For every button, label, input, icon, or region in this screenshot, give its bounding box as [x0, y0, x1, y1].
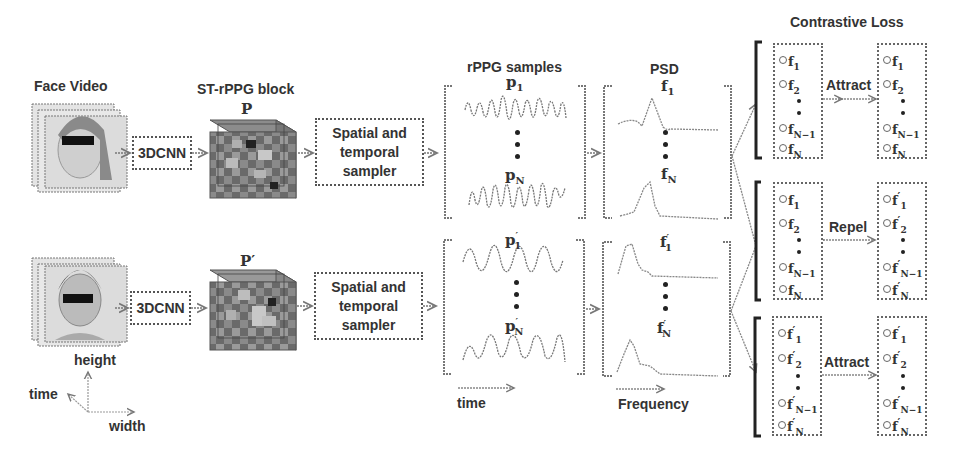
block-label-p-prime: P′ [240, 252, 255, 270]
psd-f1-prime: f′1 [660, 232, 672, 253]
3dcnn-bottom: 3DCNN [130, 291, 191, 325]
fanout-lines [731, 104, 756, 372]
block-label-p: P [241, 100, 252, 118]
ellipsis-dot [663, 130, 668, 135]
ellipsis-dot [663, 294, 668, 299]
ellipsis-dot [663, 142, 668, 147]
psd-f1: f1 [661, 77, 674, 97]
feature-box-g1-left: f1 f2 fN−1 fN [773, 182, 823, 300]
face-video-bottom [32, 258, 127, 346]
title-face-video: Face Video [34, 78, 108, 94]
psd-fN: fN [661, 165, 677, 185]
relation-attract-2: Attract [824, 354, 869, 370]
ellipsis-dot [515, 130, 520, 135]
ellipsis-dot [514, 304, 519, 309]
ellipsis-dot [515, 154, 520, 159]
psd-curve-f1 [618, 98, 718, 130]
feature-box-g0-right: f1 f2 fN−1 fN [877, 43, 927, 159]
st-rppg-cube-top [210, 120, 296, 198]
sampler-bottom: Spatial and temporal sampler [314, 272, 423, 340]
psd-curve-fN-prime [617, 340, 718, 376]
ellipsis-dot [514, 280, 519, 285]
contrastive-brackets [755, 42, 762, 436]
psd-curve-fN [620, 182, 718, 219]
sampler-bottom-line1: Spatial and [331, 278, 406, 297]
ellipsis-dot [663, 306, 668, 311]
st-rppg-cube-bottom [210, 270, 296, 350]
wave-pN-prime [463, 335, 565, 362]
psd-bracket-top [604, 86, 731, 218]
axis-label-time: time [457, 395, 486, 411]
sampler-top-line2: temporal [340, 143, 399, 162]
title-st-rppg-block: ST-rPPG block [197, 81, 294, 97]
ellipsis-dot [515, 142, 520, 147]
sampler-top: Spatial and temporal sampler [315, 118, 424, 186]
axis-indicator [68, 372, 134, 412]
sample-pN-prime: p′N [505, 316, 523, 337]
sample-p1: p1 [506, 73, 523, 93]
ellipsis-dot [663, 154, 668, 159]
sample-pN: pN [505, 166, 525, 186]
title-psd: PSD [650, 61, 679, 77]
sampler-bottom-line2: temporal [339, 297, 398, 316]
wave-pN [469, 184, 565, 208]
axis-label-height: height [74, 352, 116, 368]
3dcnn-top: 3DCNN [132, 136, 192, 170]
feature-box-g2-left: f′1 f′2 f′N−1 f′N [772, 316, 822, 436]
sampler-top-line1: Spatial and [332, 124, 407, 143]
feature-box-g2-right: f′1 f′2 f′N−1 f′N [877, 316, 927, 436]
relation-attract-1: Attract [826, 77, 871, 93]
feature-box-g1-right: f′1 f′2 f′N−1 f′N [877, 182, 927, 300]
axis-label-frequency: Frequency [618, 396, 689, 412]
wave-p1 [465, 96, 566, 119]
psd-fN-prime: f′N [657, 318, 671, 339]
axis-label-time-3d: time [29, 386, 58, 402]
axis-label-width: width [109, 418, 146, 434]
relation-repel: Repel [829, 219, 867, 235]
ellipsis-dot [663, 282, 668, 287]
face-video-top [32, 104, 127, 192]
ellipsis-dot [514, 292, 519, 297]
sampler-top-line3: sampler [343, 162, 397, 181]
sampler-bottom-line3: sampler [342, 316, 396, 335]
sample-p1-prime: p′1 [505, 230, 521, 251]
feature-box-g0-left: f1 f2 fN−1 fN [773, 43, 823, 159]
title-contrastive-loss: Contrastive Loss [790, 14, 904, 30]
